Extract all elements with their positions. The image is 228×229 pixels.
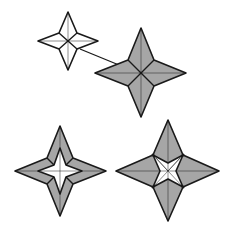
- origami-diagram: [0, 0, 228, 229]
- star-step-1: [38, 12, 98, 70]
- star-step-3: [15, 126, 106, 216]
- star-step-4: [116, 120, 219, 221]
- star-step-2: [95, 28, 186, 117]
